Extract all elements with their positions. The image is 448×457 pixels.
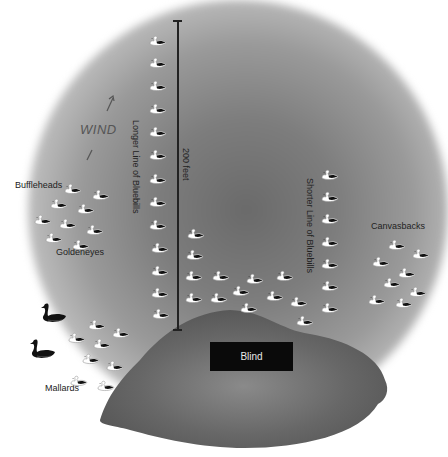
duck-decoy-icon	[149, 171, 167, 183]
duck-decoy-icon	[97, 378, 115, 390]
duck-decoy-icon	[276, 268, 294, 280]
duck-decoy-icon	[50, 196, 68, 208]
mallard-drake-decoy-icon	[40, 302, 68, 326]
duck-decoy-icon	[149, 124, 167, 136]
duck-decoy-icon	[149, 101, 167, 113]
duck-decoy-icon	[296, 313, 314, 325]
duck-decoy-icon	[149, 78, 167, 90]
blind: Blind	[210, 342, 293, 371]
duck-decoy-icon	[70, 373, 88, 385]
duck-decoy-icon	[321, 234, 339, 246]
duck-decoy-icon	[388, 237, 406, 249]
mallard-drake-decoy-icon	[29, 338, 57, 362]
duck-decoy-icon	[266, 288, 284, 300]
duck-decoy-icon	[45, 230, 63, 242]
duck-decoy-icon	[372, 254, 390, 266]
duck-decoy-icon	[186, 247, 204, 259]
duck-decoy-icon	[92, 187, 110, 199]
duck-decoy-icon	[77, 201, 95, 213]
duck-decoy-icon	[151, 285, 169, 297]
duck-decoy-icon	[212, 268, 230, 280]
duck-decoy-icon	[210, 290, 228, 302]
duck-decoy-icon	[112, 325, 130, 337]
duck-decoy-icon	[321, 211, 339, 223]
duck-decoy-icon	[246, 271, 264, 283]
duck-decoy-icon	[149, 147, 167, 159]
duck-decoy-icon	[106, 358, 124, 370]
duck-decoy-icon	[412, 246, 430, 258]
duck-decoy-icon	[383, 275, 401, 287]
duck-decoy-icon	[82, 351, 100, 363]
duck-decoy-icon	[151, 240, 169, 252]
duck-decoy-icon	[149, 217, 167, 229]
duck-decoy-icon	[321, 256, 339, 268]
blind-label: Blind	[240, 351, 262, 362]
duck-decoy-icon	[368, 292, 386, 304]
duck-decoy-icon	[149, 33, 167, 45]
duck-decoy-icon	[151, 263, 169, 275]
duck-decoy-icon	[321, 189, 339, 201]
duck-decoy-icon	[68, 330, 86, 342]
duck-decoy-icon	[149, 55, 167, 67]
duck-decoy-icon	[240, 300, 258, 312]
duck-decoy-icon	[72, 237, 90, 249]
duck-decoy-icon	[185, 290, 203, 302]
duck-decoy-icon	[88, 317, 106, 329]
duck-decoy-icon	[93, 336, 111, 348]
duck-decoy-icon	[86, 222, 104, 234]
duck-decoy-icon	[34, 212, 52, 224]
duck-decoy-icon	[152, 306, 170, 318]
duck-decoy-icon	[187, 226, 205, 238]
buffleheads-label: Buffleheads	[15, 180, 62, 190]
duck-decoy-icon	[321, 278, 339, 290]
duck-decoy-icon	[321, 167, 339, 179]
duck-decoy-icon	[290, 294, 308, 306]
duck-decoy-icon	[321, 300, 339, 312]
duck-decoy-icon	[395, 295, 413, 307]
duck-decoy-icon	[185, 268, 203, 280]
duck-decoy-icon	[64, 181, 82, 193]
duck-decoy-icon	[59, 216, 77, 228]
canvasbacks-label: Canvasbacks	[371, 221, 425, 231]
duck-decoy-icon	[149, 194, 167, 206]
